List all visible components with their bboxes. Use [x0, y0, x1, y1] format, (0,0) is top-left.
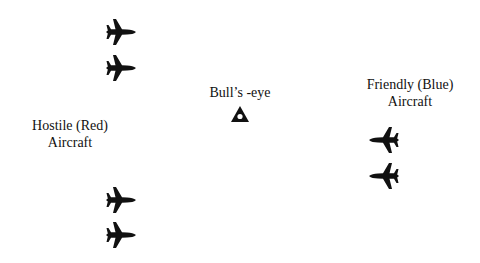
bullseye-label: Bull’s -eye	[190, 84, 290, 101]
fighter-jet-icon	[105, 219, 137, 251]
friendly-aircraft-2	[368, 160, 400, 192]
hostile-label: Hostile (Red) Aircraft	[10, 117, 130, 151]
hostile-aircraft-2	[105, 52, 137, 84]
fighter-jet-icon	[105, 184, 137, 216]
friendly-label-line2: Aircraft	[345, 93, 475, 110]
hostile-label-line2: Aircraft	[10, 134, 130, 151]
friendly-aircraft-1	[368, 124, 400, 156]
fighter-jet-icon	[105, 16, 137, 48]
hostile-aircraft-3	[105, 184, 137, 216]
fighter-jet-icon	[368, 160, 400, 192]
bullseye-triangle-icon	[231, 106, 249, 122]
friendly-label-line1: Friendly (Blue)	[345, 76, 475, 93]
fighter-jet-icon	[105, 52, 137, 84]
friendly-label: Friendly (Blue) Aircraft	[345, 76, 475, 110]
hostile-label-line1: Hostile (Red)	[10, 117, 130, 134]
bullseye-marker	[231, 106, 249, 122]
hostile-aircraft-4	[105, 219, 137, 251]
fighter-jet-icon	[368, 124, 400, 156]
hostile-aircraft-1	[105, 16, 137, 48]
